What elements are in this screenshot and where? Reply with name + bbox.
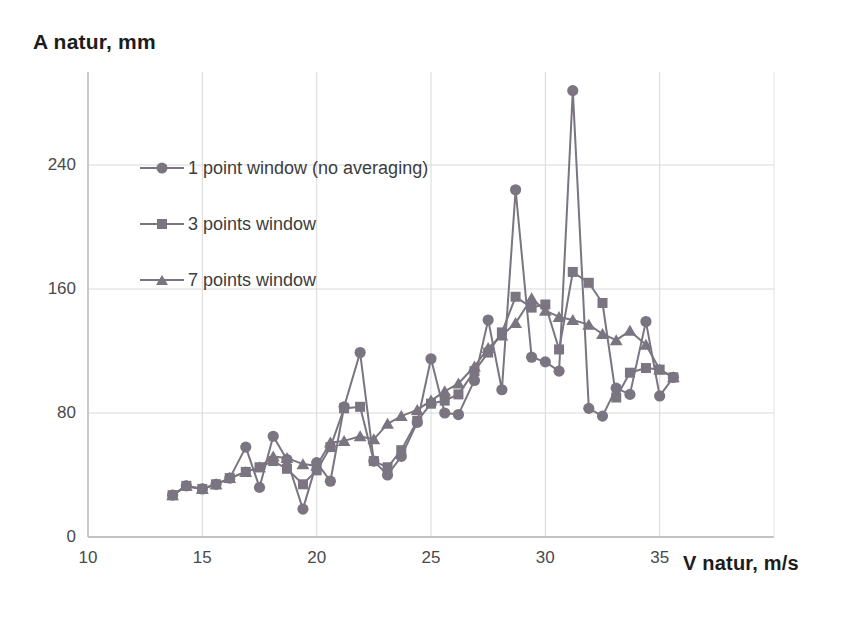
data-point <box>598 298 608 308</box>
data-point <box>412 416 422 426</box>
data-point <box>240 442 251 453</box>
legend-item-7-points-window: 7 points window <box>140 252 450 308</box>
data-point <box>383 462 393 472</box>
y-axis-tick-label: 0 <box>16 527 76 547</box>
plot-area <box>0 0 855 618</box>
data-point <box>254 482 265 493</box>
x-axis-tick-label: 35 <box>650 548 669 568</box>
data-point <box>624 325 637 336</box>
data-point <box>624 389 635 400</box>
data-point <box>610 334 623 345</box>
data-point <box>453 389 463 399</box>
y-axis-tick-labels: 080160240 <box>12 0 76 618</box>
data-point <box>381 418 394 429</box>
y-axis-tick-label: 160 <box>16 279 76 299</box>
legend-label: 3 points window <box>188 214 316 235</box>
data-point <box>554 344 564 354</box>
legend-label: 1 point window (no averaging) <box>188 158 428 179</box>
data-point <box>553 311 566 322</box>
chart-container: A natur, mm V natur, m/s 080160240 10152… <box>0 0 855 618</box>
data-point <box>438 385 451 396</box>
data-point <box>640 316 651 327</box>
legend-marker-square-icon <box>140 215 184 233</box>
data-point <box>439 407 450 418</box>
legend-label: 7 points window <box>188 270 316 291</box>
data-point <box>339 403 349 413</box>
data-point <box>268 431 279 442</box>
data-point <box>483 314 494 325</box>
legend-marker-circle-icon <box>140 159 184 177</box>
data-point <box>453 409 464 420</box>
data-point <box>584 278 594 288</box>
data-point <box>641 363 651 373</box>
data-point <box>510 184 521 195</box>
data-point <box>396 445 406 455</box>
x-axis-tick-label: 15 <box>193 548 212 568</box>
data-point <box>298 479 308 489</box>
x-axis-tick-label: 25 <box>422 548 441 568</box>
data-point <box>540 356 551 367</box>
data-point <box>568 267 578 277</box>
data-point <box>654 390 665 401</box>
chart-legend: 1 point window (no averaging) 3 points w… <box>140 140 450 308</box>
data-point <box>369 456 379 466</box>
data-point <box>355 347 366 358</box>
data-point <box>553 366 564 377</box>
y-axis-tick-label: 240 <box>16 155 76 175</box>
data-point <box>440 396 450 406</box>
x-axis-tick-label: 10 <box>79 548 98 568</box>
legend-item-1-point-window: 1 point window (no averaging) <box>140 140 450 196</box>
data-point <box>282 464 292 474</box>
data-point <box>425 353 436 364</box>
data-point <box>625 368 635 378</box>
data-point <box>525 292 538 303</box>
legend-item-3-points-window: 3 points window <box>140 196 450 252</box>
legend-marker-triangle-icon <box>140 271 184 289</box>
data-point <box>611 393 621 403</box>
x-axis-tick-label: 30 <box>536 548 555 568</box>
data-point <box>325 476 336 487</box>
y-axis-tick-label: 80 <box>16 403 76 423</box>
data-point <box>567 85 578 96</box>
data-point <box>509 317 522 328</box>
data-point <box>511 292 521 302</box>
data-point <box>583 403 594 414</box>
x-axis-tick-label: 20 <box>307 548 326 568</box>
data-point <box>395 410 408 421</box>
data-point <box>297 504 308 515</box>
data-point <box>496 384 507 395</box>
data-point <box>597 411 608 422</box>
data-point <box>354 430 367 441</box>
data-point <box>526 352 537 363</box>
data-point <box>355 402 365 412</box>
